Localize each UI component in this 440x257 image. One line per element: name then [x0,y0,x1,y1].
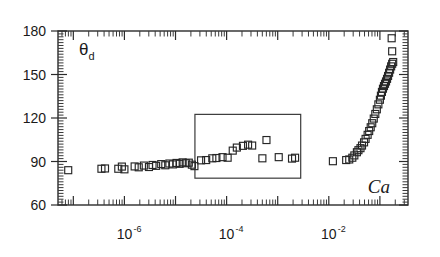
data-point-marker [263,137,270,144]
scatter-plot: 609012015018010-610-410-2θdCa [0,0,440,257]
svg-text:10: 10 [117,226,133,242]
svg-text:-4: -4 [236,224,244,234]
y-axis-tick-label: 90 [30,154,46,170]
inset-highlight-box [195,114,301,178]
data-point-marker [275,154,282,161]
svg-text:-6: -6 [133,224,141,234]
x-axis-tick-label: 10-2 [321,224,346,242]
svg-text:10: 10 [321,226,337,242]
figure-container: 609012015018010-610-410-2θdCa [0,0,440,257]
y-axis-label: θd [79,40,95,62]
data-point-marker [388,35,395,42]
svg-text:-2: -2 [338,224,346,234]
y-axis-tick-label: 120 [23,110,47,126]
data-point-marker [389,48,396,55]
data-point-marker [65,167,72,174]
y-axis-tick-label: 150 [23,67,47,83]
x-axis-label: Ca [368,176,390,197]
y-axis-label-subscript: d [88,50,94,62]
y-axis-tick-label: 180 [23,23,47,39]
data-point-marker [329,158,336,165]
data-point-marker [198,157,205,164]
plot-frame [58,31,408,205]
data-point-marker [259,155,266,162]
y-axis-tick-label: 60 [30,197,46,213]
svg-text:10: 10 [219,226,235,242]
x-axis-tick-label: 10-4 [219,224,244,242]
x-axis-tick-label: 10-6 [117,224,142,242]
